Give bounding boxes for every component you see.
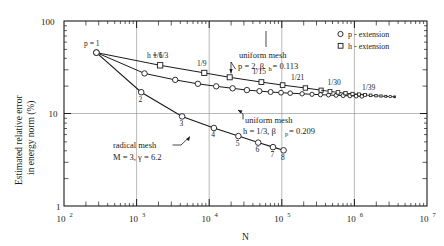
x-tick-label-1e5: 10 5 (274, 211, 290, 224)
radical-mesh-label-line2: M = 3, γ = 6.2 (113, 152, 162, 162)
lower-beta-text: h = 1/3, β (243, 126, 276, 136)
legend-label-h-extension: h - extension (348, 42, 389, 51)
x-tick-labels: 10 2 10 3 10 4 10 5 10 6 10 7 (57, 211, 437, 224)
x-tick-label-1e7: 10 7 (419, 211, 436, 224)
legend-label-p-extension: p - extension (348, 30, 389, 39)
x-tick-label-1e6: 10 6 (347, 211, 364, 224)
uniform-mesh-lower-label-line1: uniform mesh (245, 115, 293, 125)
y-tick-label-1: 1 (56, 202, 61, 212)
point-label-6: 6 (256, 145, 260, 154)
svg-text:10: 10 (129, 214, 139, 224)
y-tick-label-10: 10 (49, 109, 59, 119)
point-label-5: 5 (236, 139, 240, 148)
svg-text:10: 10 (347, 214, 357, 224)
svg-text:2: 2 (70, 211, 73, 218)
x-tick-label-1e2: 10 2 (57, 211, 73, 224)
point-label-h-1-9: 1/9 (197, 59, 207, 68)
legend-marker-p-extension (338, 31, 343, 36)
x-tick-label-1e4: 10 4 (202, 211, 219, 224)
uniform-mesh-upper-label-line1: uniform mesh (239, 50, 287, 60)
lower-beta-subscript: p (285, 130, 288, 137)
svg-text:3: 3 (142, 211, 145, 218)
svg-text:5: 5 (287, 211, 290, 218)
svg-text:4: 4 (215, 211, 219, 218)
x-axis-label: N (242, 232, 249, 242)
chart-svg: 2 3 4 5 6 7 8 1/6 1/9 1/15 1/21 1/30 1/3… (0, 0, 444, 246)
figure-container: 2 3 4 5 6 7 8 1/6 1/9 1/15 1/21 1/30 1/3… (0, 0, 444, 246)
upper-beta-text: p = 2, β (238, 61, 264, 71)
svg-text:10: 10 (57, 214, 67, 224)
point-label-h-1-30: 1/30 (328, 78, 342, 87)
start-label-p1: p = 1 (84, 39, 100, 48)
y-tick-labels: 100 10 1 (41, 17, 61, 212)
svg-text:10: 10 (202, 214, 212, 224)
start-label-h13: h = 1/3 (147, 51, 169, 60)
point-label-h-1-21: 1/21 (291, 73, 305, 82)
y-axis-label-line2: in energy norm (%) (26, 101, 37, 175)
svg-text:6: 6 (360, 211, 364, 218)
svg-text:7: 7 (432, 211, 436, 218)
y-tick-label-100: 100 (41, 17, 55, 27)
point-label-3: 3 (180, 119, 184, 128)
point-label-h-1-39: 1/39 (362, 83, 376, 92)
point-label-2: 2 (139, 95, 143, 104)
point-label-8: 8 (281, 153, 285, 162)
svg-text:10: 10 (274, 214, 284, 224)
upper-beta-value: = 0.113 (273, 61, 299, 71)
legend-marker-h-extension (338, 43, 343, 48)
x-tick-label-1e3: 10 3 (129, 211, 145, 224)
svg-text:10: 10 (419, 214, 429, 224)
lower-beta-value: = 0.209 (289, 126, 315, 136)
radical-mesh-label-line1: radical mesh (113, 140, 157, 150)
y-axis-label-line1: Estimated relative error (14, 94, 24, 185)
point-label-7: 7 (270, 150, 274, 159)
point-label-4: 4 (211, 130, 215, 139)
